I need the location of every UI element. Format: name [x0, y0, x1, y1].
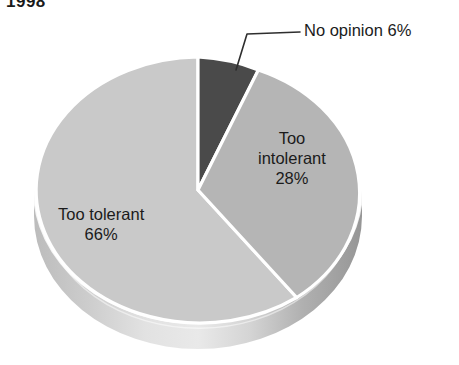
pie-chart-figure: 1998	[0, 0, 459, 365]
slice-label-too-tolerant: Too tolerant 66%	[58, 204, 144, 244]
pie-chart-graphic	[0, 0, 459, 365]
slice-label-too-intolerant-line1: Too	[258, 128, 326, 148]
slice-label-too-intolerant-line2: intolerant	[258, 148, 326, 168]
slice-label-too-intolerant: Too intolerant 28%	[258, 128, 326, 188]
slice-label-too-tolerant-value: 66%	[58, 224, 144, 244]
slice-label-too-intolerant-value: 28%	[258, 168, 326, 188]
pie-slices	[36, 57, 359, 323]
slice-label-no-opinion: No opinion 6%	[304, 20, 411, 40]
slice-label-too-tolerant-line1: Too tolerant	[58, 204, 144, 224]
